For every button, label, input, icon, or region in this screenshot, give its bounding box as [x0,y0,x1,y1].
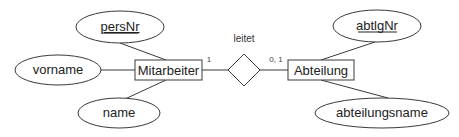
attribute-name: name [78,98,160,128]
attribute-vorname-label: vorname [33,62,84,77]
attribute-abtlgnr-label: abtlgNr [356,18,399,33]
cardinality-left: 1 [207,55,212,64]
relationship-leitet: leitet 1 0, 1 [207,33,283,86]
attribute-abteilungsname: abteilungsname [315,98,449,128]
attribute-name-label: name [103,105,136,120]
edge-name-mitarbeiter [125,80,166,99]
attribute-persnr-label: persNr [100,19,140,34]
attribute-abteilungsname-label: abteilungsname [336,105,428,120]
edge-persnr-mitarbeiter [120,43,166,60]
entity-mitarbeiter: Mitarbeiter [135,60,202,80]
edge-abteilungsname-abteilung [321,80,388,98]
attribute-vorname: vorname [15,55,101,85]
entity-abteilung: Abteilung [288,60,354,80]
attribute-abtlgnr: abtlgNr [333,10,421,42]
entity-mitarbeiter-label: Mitarbeiter [138,63,200,78]
relationship-label: leitet [233,33,254,44]
attribute-persnr: persNr [76,11,164,43]
entity-abteilung-label: Abteilung [294,63,348,78]
cardinality-right: 0, 1 [269,55,283,64]
er-diagram: persNr vorname name Mitarbeiter leitet 1… [0,0,459,137]
edge-abtlgnr-abteilung [321,42,375,60]
